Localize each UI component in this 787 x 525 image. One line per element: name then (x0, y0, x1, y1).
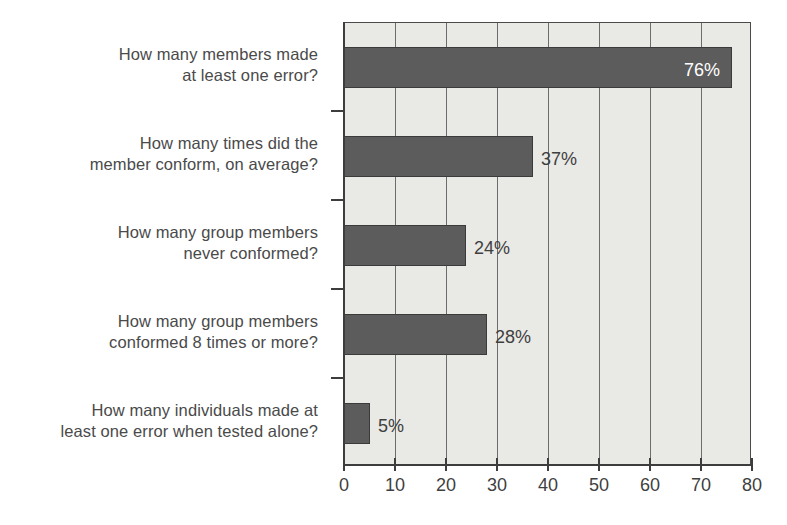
y-axis-tick-3 (331, 288, 344, 290)
bar-value-2: 37% (541, 150, 577, 168)
category-label-3: How many group members never conformed? (0, 222, 318, 264)
category-label-4-line2: conformed 8 times or more? (0, 332, 318, 353)
category-axis-labels: How many members made at least one error… (0, 22, 330, 465)
x-axis-tick-0 (343, 458, 345, 471)
category-label-1-line2: at least one error? (0, 65, 318, 86)
bar-value-1: 76% (684, 61, 720, 79)
bar-value-4: 28% (495, 328, 531, 346)
bar-2[interactable] (344, 136, 533, 177)
category-label-2-line1: How many times did the (0, 133, 318, 154)
category-label-4: How many group members conformed 8 times… (0, 311, 318, 353)
x-axis-tick-10 (394, 458, 396, 471)
bar-5[interactable] (344, 403, 370, 444)
category-label-3-line1: How many group members (0, 222, 318, 243)
x-axis-tick-60 (649, 458, 651, 471)
y-axis-tick-4 (331, 377, 344, 379)
x-axis-label-80: 80 (722, 475, 782, 496)
x-axis-tick-70 (700, 458, 702, 471)
category-label-2-line2: member conform, on average? (0, 154, 318, 175)
category-label-5-line1: How many individuals made at (0, 400, 318, 421)
x-axis-tick-20 (445, 458, 447, 471)
category-label-1-line1: How many members made (0, 44, 318, 65)
gridline-70 (701, 23, 702, 464)
y-axis-tick-2 (331, 199, 344, 201)
x-axis-tick-50 (598, 458, 600, 471)
category-label-3-line2: never conformed? (0, 243, 318, 264)
bar-3[interactable] (344, 225, 466, 266)
category-label-5-line2: least one error when tested alone? (0, 421, 318, 442)
gridline-60 (650, 23, 651, 464)
y-axis-tick-1 (331, 110, 344, 112)
bar-value-5: 5% (378, 417, 404, 435)
category-label-4-line1: How many group members (0, 311, 318, 332)
bar-value-3: 24% (474, 239, 510, 257)
bar-1[interactable] (344, 47, 732, 88)
x-axis-tick-30 (496, 458, 498, 471)
y-axis-line (343, 22, 345, 466)
bar-4[interactable] (344, 314, 487, 355)
gridline-40 (548, 23, 549, 464)
bar-chart: How many members made at least one error… (0, 0, 787, 525)
plot-area: 76% 37% 24% 28% 5% (343, 22, 751, 465)
x-axis-tick-80 (751, 458, 753, 471)
category-label-1: How many members made at least one error… (0, 44, 318, 86)
category-label-2: How many times did the member conform, o… (0, 133, 318, 175)
x-axis-tick-40 (547, 458, 549, 471)
category-label-5: How many individuals made at least one e… (0, 400, 318, 442)
gridline-50 (599, 23, 600, 464)
